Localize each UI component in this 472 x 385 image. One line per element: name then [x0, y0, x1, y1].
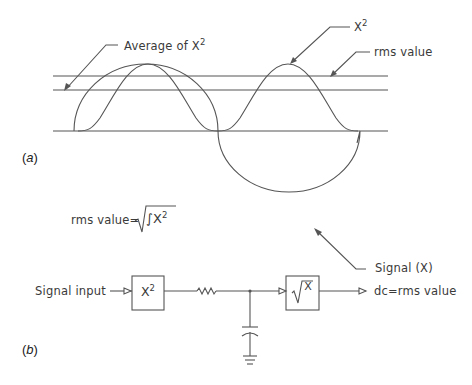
- panel-b-label: (b): [22, 342, 38, 357]
- x-squared-leader: [292, 27, 350, 62]
- average-label: Average of X2: [124, 37, 206, 53]
- x-squared-curve: [78, 64, 358, 131]
- signal-leader: [316, 230, 366, 269]
- average-leader: [66, 45, 118, 89]
- formula-radicand: ∫X2: [146, 210, 168, 226]
- signal-input-label: Signal input: [35, 284, 106, 298]
- formula-lhs: rms value=: [71, 213, 139, 227]
- signal-curve: [74, 64, 360, 192]
- rms-leader: [332, 52, 370, 75]
- output-label: dc=rms value: [374, 284, 456, 298]
- rms-value-label: rms value: [374, 45, 433, 59]
- sqrt-input-arrow-icon: [279, 288, 286, 294]
- sqrt-block-label: X: [302, 280, 314, 293]
- resistor-icon: [197, 288, 216, 294]
- square-block-label: X2: [132, 283, 164, 299]
- panel-a-label: (a): [22, 150, 38, 165]
- signal-label: Signal (X): [375, 261, 433, 275]
- output-arrow-icon: [359, 288, 366, 294]
- junction-dot: [248, 289, 251, 292]
- input-arrow-icon: [124, 288, 131, 294]
- x-squared-label: X2: [354, 18, 368, 34]
